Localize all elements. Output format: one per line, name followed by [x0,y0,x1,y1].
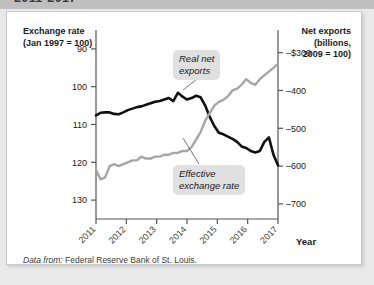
left-axis-tick-label: 130 [72,195,87,205]
left-axis-tick-label: 100 [72,82,87,92]
series-line-effective-exchange-rate [96,64,278,179]
x-axis-tick-label: 2017 [258,224,279,245]
x-axis-tick-label: 2012 [107,224,128,245]
title-strip: 2011-2017 [0,0,374,9]
x-axis-name: Year [296,236,316,247]
chart-card: Exchange rate (Jan 1997 = 100) Net expor… [6,11,362,265]
source-note-text: Federal Reserve Bank of St. Louis. [65,255,197,265]
right-axis-tick-label: –600 [286,161,306,171]
right-axis-tick-label: –700 [286,199,306,209]
series-line-real-net-exports [96,93,278,166]
x-axis-tick-label: 2016 [228,224,249,245]
x-axis-tick-label: 2014 [167,224,188,245]
annotation-effective-exchange-rate-line1: Effective [179,168,239,180]
source-note: Data from: Federal Reserve Bank of St. L… [23,255,197,265]
annotation-real-net-exports-line2: exports [179,65,214,77]
x-axis-tick-label: 2015 [198,224,219,245]
page-title: 2011-2017 [14,0,77,5]
chart-page: 2011-2017 Exchange rate (Jan 1997 = 100)… [0,0,374,285]
annotation-real-net-exports-line1: Real net [179,53,214,65]
right-axis-tick-label: –500 [286,124,306,134]
annotation-effective-exchange-rate: Effective exchange rate [173,165,245,195]
annotation-real-net-exports: Real net exports [173,50,220,80]
series-layer [96,64,278,179]
annotation-effective-exchange-rate-line2: exchange rate [179,180,239,192]
left-axis-tick-label: 110 [73,120,87,130]
right-axis-tick-label: –$300 [286,48,311,58]
x-axis-tick-label: 2013 [137,224,158,245]
x-axis-tick-label: 2011 [77,224,98,245]
left-axis-tick-label: 120 [72,158,87,168]
left-axis-tick-label: 90 [77,44,87,54]
right-axis-tick-label: –400 [286,86,306,96]
source-note-prefix: Data from: [23,255,63,265]
